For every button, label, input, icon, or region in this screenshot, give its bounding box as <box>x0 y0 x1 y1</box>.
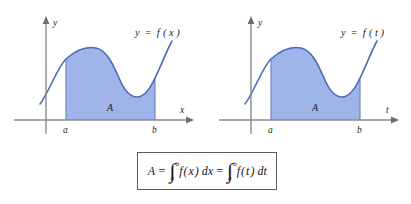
area-label-x: A <box>106 102 114 113</box>
integrand-f-2: f <box>237 165 240 177</box>
curve-label-f-t: f <box>363 27 368 38</box>
graph-svg-x: y x a b A y = f ( x ) <box>0 0 205 140</box>
curve-label-x: y = f ( x ) <box>134 27 180 39</box>
t-axis-label: t <box>386 105 389 115</box>
curve-label-close-x: ) <box>175 27 180 39</box>
formula-equals-first: = <box>159 165 166 177</box>
integrand-close-1: ) <box>195 165 199 177</box>
curve-label-equals-t: = <box>351 27 357 38</box>
y-axis-label-t-panel: y <box>257 18 263 28</box>
integrand-open-1: ( <box>184 165 188 177</box>
t-axis-arrowhead <box>391 117 399 124</box>
integral-upper-limit-2: b <box>233 161 237 168</box>
curve-label-equals-x: = <box>145 27 151 38</box>
differential-1: dx <box>202 165 213 177</box>
second-integral: ∫ b a <box>227 162 235 181</box>
integral-equation: A = ∫ b a f ( x ) dx = ∫ b a <box>147 162 266 181</box>
curve-label-open-t: ( <box>369 27 374 39</box>
tick-label-b-x: b <box>152 125 157 135</box>
y-axis-arrowhead-t <box>248 16 255 24</box>
integrand-arg-1: x <box>189 165 194 177</box>
curve-label-arg-t: t <box>375 27 379 38</box>
differential-2: dt <box>257 165 266 177</box>
y-axis-label-x-panel: y <box>52 18 58 28</box>
integral-figure: y x a b A y = f ( x ) <box>0 0 411 204</box>
graph-svg-t: y t a b A y = f ( t ) <box>205 0 410 140</box>
curve-label-t: y = f ( t ) <box>340 27 385 39</box>
area-label-t: A <box>311 102 319 113</box>
first-integral: ∫ b a <box>169 162 177 181</box>
curve-label-f-x: f <box>157 27 162 38</box>
integrand-arg-2: t <box>246 165 249 177</box>
tick-label-b-t: b <box>357 125 362 135</box>
graph-panel-x: y x a b A y = f ( x ) <box>0 0 205 140</box>
y-axis-arrowhead-x <box>43 16 50 24</box>
integrand-f-1: f <box>179 165 182 177</box>
integral-upper-limit-1: b <box>176 161 180 168</box>
curve-label-open-x: ( <box>163 27 168 39</box>
curve-label-y-t: y <box>340 27 346 38</box>
curve-label-close-t: ) <box>380 27 385 39</box>
graph-panel-t: y t a b A y = f ( t ) <box>205 0 410 140</box>
integral-lower-limit-2: a <box>228 175 232 182</box>
integral-lower-limit-1: a <box>171 175 175 182</box>
tick-label-a-t: a <box>268 125 273 135</box>
x-axis-label: x <box>179 105 185 115</box>
curve-label-y-x: y <box>134 27 140 38</box>
curve-label-arg-x: x <box>168 27 174 38</box>
integrand-close-2: ) <box>250 165 254 177</box>
formula-equals-second: = <box>216 165 223 177</box>
integrand-open-2: ( <box>241 165 245 177</box>
formula-area-symbol: A <box>148 165 155 177</box>
x-axis-arrowhead <box>186 117 194 124</box>
tick-label-a-x: a <box>63 125 68 135</box>
formula-box: A = ∫ b a f ( x ) dx = ∫ b a <box>137 152 277 190</box>
